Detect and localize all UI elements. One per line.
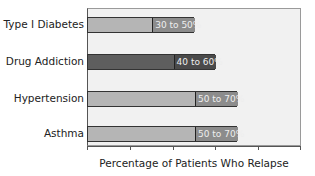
category-label: Hypertension bbox=[14, 92, 84, 104]
x-axis-tick bbox=[300, 146, 301, 150]
category-label: Drug Addiction bbox=[6, 55, 84, 67]
bar-range-segment: 50 to 70% bbox=[195, 92, 238, 106]
bar: 30 to 50% bbox=[87, 17, 194, 33]
bar: 50 to 70% bbox=[87, 91, 237, 107]
x-axis-tick bbox=[215, 146, 216, 150]
bar-range-segment: 50 to 70% bbox=[195, 127, 238, 141]
x-axis-label: Percentage of Patients Who Relapse bbox=[87, 157, 301, 169]
bar: 40 to 60% bbox=[87, 54, 215, 70]
x-axis-tick bbox=[87, 146, 88, 150]
x-axis bbox=[87, 146, 301, 147]
bar: 50 to 70% bbox=[87, 126, 237, 142]
category-label: Asthma bbox=[44, 127, 84, 139]
bar-base-segment bbox=[88, 92, 195, 106]
bar-range-segment: 30 to 50% bbox=[152, 18, 195, 32]
x-axis-tick bbox=[173, 146, 174, 150]
x-axis-tick bbox=[258, 146, 259, 150]
bar-base-segment bbox=[88, 127, 195, 141]
bar-base-segment bbox=[88, 55, 174, 69]
bar-range-segment: 40 to 60% bbox=[174, 55, 217, 69]
category-label: Type I Diabetes bbox=[4, 18, 85, 30]
x-axis-tick bbox=[130, 146, 131, 150]
bar-base-segment bbox=[88, 18, 152, 32]
